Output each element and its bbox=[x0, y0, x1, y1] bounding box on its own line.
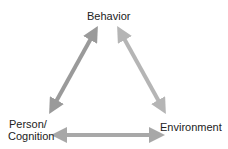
node-environment: Environment bbox=[160, 121, 222, 133]
arrow-behavior-environment bbox=[121, 33, 162, 107]
arrow-person-behavior bbox=[53, 33, 94, 107]
node-behavior: Behavior bbox=[87, 10, 130, 22]
node-person-line2: Cognition bbox=[8, 130, 54, 142]
node-person-line1: Person/ bbox=[9, 118, 47, 130]
